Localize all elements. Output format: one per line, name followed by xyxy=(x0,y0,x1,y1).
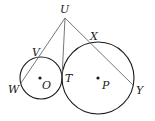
label-w: W xyxy=(8,83,21,96)
label-t: T xyxy=(65,72,74,85)
label-x: X xyxy=(89,30,99,43)
secant-uw xyxy=(21,18,65,83)
geometry-diagram: U V W O T X P Y xyxy=(0,0,155,121)
center-p-dot xyxy=(96,76,99,79)
label-p: P xyxy=(101,79,110,92)
label-v: V xyxy=(32,46,41,59)
label-u: U xyxy=(60,3,70,16)
label-o: O xyxy=(42,79,51,92)
label-y: Y xyxy=(136,84,145,97)
